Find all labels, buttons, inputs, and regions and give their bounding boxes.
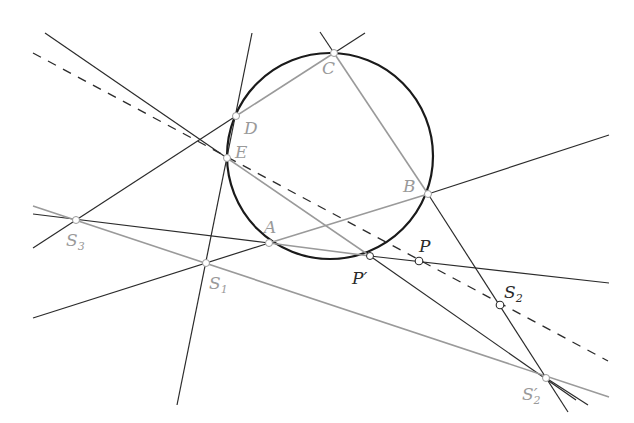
point-B — [425, 191, 432, 198]
line-S1-A — [33, 243, 269, 318]
diagram-svg: A B C D E P P′ S1 S2 S′2 S3 — [0, 0, 634, 423]
line-C-extension — [334, 33, 365, 53]
label-P: P — [418, 236, 431, 256]
label-S2-prime: S′2 — [522, 384, 541, 407]
label-S1: S1 — [209, 273, 228, 296]
point-E — [224, 155, 231, 162]
point-A — [266, 240, 273, 247]
point-P — [415, 257, 423, 265]
line-Pprime-P — [370, 256, 609, 283]
label-S3: S3 — [66, 230, 85, 253]
segment-C-B — [334, 53, 428, 194]
segment-A-B — [269, 194, 428, 243]
dashed-pascal-line — [33, 53, 608, 361]
line-S2prime-extra — [546, 378, 588, 405]
label-S2: S2 — [504, 282, 523, 305]
point-S1 — [203, 260, 210, 267]
point-S2 — [496, 301, 504, 309]
line-B-extension — [428, 135, 609, 194]
label-B: B — [402, 176, 416, 196]
label-E: E — [234, 142, 248, 162]
label-A: A — [262, 217, 276, 237]
point-S3 — [73, 217, 80, 224]
label-C: C — [322, 58, 335, 78]
segment-E-Pprime — [227, 158, 370, 256]
point-C — [331, 50, 338, 57]
label-D: D — [243, 118, 258, 138]
pascal-construction-diagram: A B C D E P P′ S1 S2 S′2 S3 — [0, 0, 634, 423]
point-P-prime — [367, 253, 374, 260]
point-S2-prime — [543, 375, 550, 382]
line-D-E-S1 — [177, 33, 252, 405]
line-S3-D — [33, 116, 236, 248]
point-D — [233, 113, 240, 120]
label-P-prime: P′ — [351, 268, 367, 288]
